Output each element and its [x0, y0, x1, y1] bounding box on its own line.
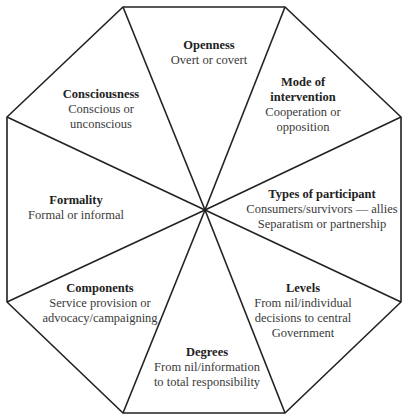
segment-title: Types of participant	[246, 187, 397, 202]
segment-text: From nil/information	[154, 360, 260, 375]
segment-text: to total responsibility	[154, 375, 260, 390]
segment-title: Mode of	[265, 75, 340, 90]
segment-components: Components Service provision or advocacy…	[42, 281, 157, 326]
segment-text: advocacy/campaigning	[42, 311, 157, 326]
segment-mode-of-intervention: Mode of intervention Cooperation or oppo…	[265, 75, 340, 135]
segment-title: Levels	[254, 281, 352, 296]
segment-text: Formal or informal	[28, 208, 124, 223]
segment-text: unconscious	[63, 117, 139, 132]
segment-text: Service provision or	[42, 296, 157, 311]
segment-levels: Levels From nil/individual decisions to …	[254, 281, 352, 341]
segment-openness: Openness Overt or covert	[171, 38, 247, 68]
segment-text: opposition	[265, 120, 340, 135]
segment-text: Separatism or partnership	[246, 217, 397, 232]
segment-text: From nil/individual	[254, 296, 352, 311]
segment-title: Consciousness	[63, 87, 139, 102]
segment-text: Consumers/survivors — allies	[246, 202, 397, 217]
segment-formality: Formality Formal or informal	[28, 193, 124, 223]
segment-title: Degrees	[154, 345, 260, 360]
segment-title: intervention	[265, 90, 340, 105]
segment-text: Cooperation or	[265, 105, 340, 120]
segment-title: Components	[42, 281, 157, 296]
segment-types-of-participant: Types of participant Consumers/survivors…	[246, 187, 397, 232]
segment-title: Formality	[28, 193, 124, 208]
segment-consciousness: Consciousness Conscious or unconscious	[63, 87, 139, 132]
segment-text: Government	[254, 326, 352, 341]
segment-text: decisions to central	[254, 311, 352, 326]
segment-text: Overt or covert	[171, 53, 247, 68]
segment-text: Conscious or	[63, 102, 139, 117]
segment-degrees: Degrees From nil/information to total re…	[154, 345, 260, 390]
segment-title: Openness	[171, 38, 247, 53]
